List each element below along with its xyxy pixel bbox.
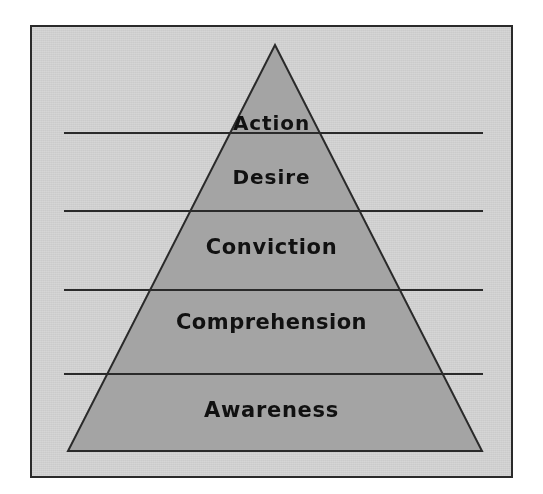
tier-label-comprehension: Comprehension (0, 310, 543, 334)
tier-label-action: Action (0, 111, 543, 135)
tier-label-awareness: Awareness (0, 398, 543, 422)
tier-label-conviction: Conviction (0, 235, 543, 259)
diagram-canvas: Action Desire Conviction Comprehension A… (0, 0, 543, 494)
tier-label-desire: Desire (0, 165, 543, 189)
